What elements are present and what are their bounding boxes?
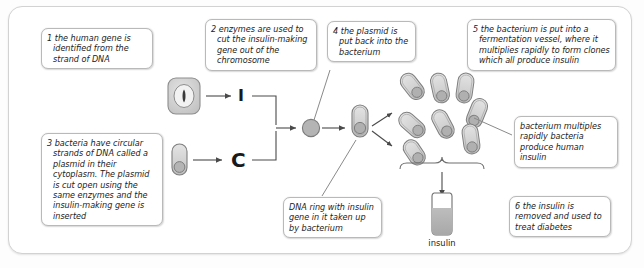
gene-symbol-glyph: I	[238, 88, 244, 104]
callout-step-3: 3 bacteria have circular strands of DNA …	[41, 133, 163, 226]
insulin-bottle-label: insulin	[412, 238, 472, 248]
callout-step-2: 2 enzymes are used to cut the insulin-ma…	[205, 19, 317, 71]
plasmid-symbol-glyph: C	[231, 150, 246, 170]
diagram-canvas: I C 1 the human gene is identified from …	[0, 0, 644, 268]
callout-step-4: 4 the plasmid is put back into the bacte…	[327, 21, 416, 62]
callout-step-1: 1 the human gene is identified from the …	[41, 28, 153, 69]
callout-note-dna-ring: DNA ring with insulin gene in it taken u…	[283, 197, 382, 238]
callout-note-bacterium: bacterium multiples rapidly bacteria pro…	[514, 116, 618, 168]
callout-step-6: 6 the insulin is removed and used to tre…	[509, 196, 611, 237]
callout-step-5: 5 the bacterium is put into a fermentati…	[467, 19, 616, 71]
